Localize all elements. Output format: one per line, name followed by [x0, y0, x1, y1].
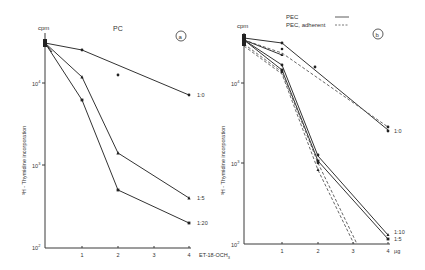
series-1-5-pec-line	[244, 40, 388, 239]
series-1-5-line	[45, 43, 189, 198]
x-tick-label: 1	[281, 248, 284, 254]
data-markers	[43, 39, 191, 224]
series-1-10-adherent-line	[244, 44, 357, 244]
series-1-0-pec-line	[244, 38, 388, 130]
series-label: 1:0	[394, 128, 402, 134]
series-1-5-adherent-line	[244, 46, 354, 244]
x-axis-label: ET-18-OCH3	[199, 252, 231, 260]
panel-label: a	[179, 34, 183, 40]
y-tick-label: 102	[231, 240, 240, 248]
panel-b: cpm PEC PEC, adherent b 104 103 102 1 2 …	[220, 14, 405, 254]
series-1-0-line	[45, 43, 189, 95]
series-label: 1:20	[197, 220, 208, 226]
y-tick-label: 102	[32, 243, 41, 251]
y-tick-label: 103	[32, 161, 41, 169]
y-tick-label: 104	[231, 79, 240, 87]
series-label: 1:0	[197, 92, 205, 98]
series-label: 1:5	[394, 236, 402, 242]
legend-label-pec-adherent: PEC, adherent	[286, 22, 326, 28]
panel-a: cpm PC a 104 103 102 1 2 3 4 ET-18-OCH3 …	[21, 25, 231, 260]
data-markers	[242, 34, 390, 240]
figure: cpm PC a 104 103 102 1 2 3 4 ET-18-OCH3 …	[0, 0, 425, 270]
x-tick-label: 3	[153, 252, 156, 258]
x-tick-label: 1	[81, 252, 84, 258]
panel-label: b	[376, 32, 380, 38]
y-unit-label: cpm	[38, 25, 49, 31]
y-axis-label: ³H - Thymidine incorporation	[220, 126, 226, 195]
x-axis-unit: µg	[394, 248, 400, 254]
y-tick-label: 104	[32, 79, 41, 87]
x-tick-label: 4	[387, 248, 390, 254]
y-tick-label: 103	[231, 159, 240, 167]
x-tick-label: 2	[117, 252, 120, 258]
legend-label-pec: PEC	[286, 14, 299, 20]
x-tick-label: 4	[188, 252, 191, 258]
series-1-20-line	[45, 43, 189, 223]
series-label: 1:5	[197, 195, 205, 201]
series-1-10-pec-line	[244, 40, 388, 235]
x-tick-label: 2	[317, 248, 320, 254]
series-1-0-adherent-line	[244, 40, 388, 127]
x-tick-label: 3	[352, 248, 355, 254]
series-label: 1:10	[394, 229, 405, 235]
panel-title: PC	[113, 25, 123, 32]
y-unit-label: cpm	[237, 23, 248, 29]
y-axis-label: ³H - Thymidine incorporation	[21, 126, 27, 195]
legend: PEC PEC, adherent	[286, 14, 349, 28]
